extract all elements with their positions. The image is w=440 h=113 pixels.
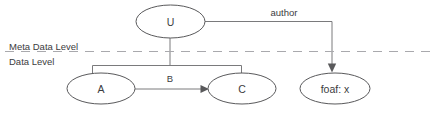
diagram-canvas: U A C foaf: x author B Meta Data Level D… xyxy=(0,0,440,113)
node-label-u: U xyxy=(167,16,175,28)
edge-line-author xyxy=(205,22,332,67)
arrowhead-author xyxy=(328,64,336,73)
edge-label-b: B xyxy=(167,73,173,84)
edge-label-author: author xyxy=(271,7,298,18)
node-label-a: A xyxy=(97,83,104,95)
bracket-connector-u-to-a-c xyxy=(93,38,242,78)
level-label-meta-data: Meta Data Level xyxy=(9,41,78,52)
node-label-foaf-x: foaf: x xyxy=(321,83,350,95)
level-label-data: Data Level xyxy=(9,56,54,67)
node-label-c: C xyxy=(238,83,246,95)
diagram-svg: U A C foaf: x author B Meta Data Level D… xyxy=(0,0,440,113)
